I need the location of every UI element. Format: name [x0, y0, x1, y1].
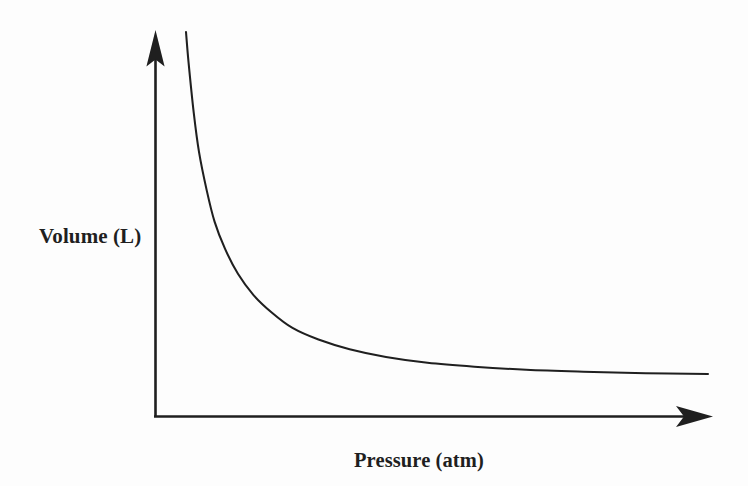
chart-figure: Volume (L) Pressure (atm) [0, 0, 748, 486]
data-curve-volume-vs-pressure [186, 32, 708, 374]
y-axis-label: Volume (L) [39, 224, 141, 248]
x-axis-label: Pressure (atm) [354, 448, 484, 472]
